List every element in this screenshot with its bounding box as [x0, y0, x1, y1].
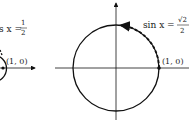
unit-circle-diagrams: s x = 1 2 (1, 0) sin x = √2 2 (1, 0) [0, 0, 189, 120]
right-point-label: (1, 0) [162, 57, 184, 66]
left-equation: s x = [0, 24, 22, 34]
right-equation: sin x = [143, 20, 175, 30]
left-frac-num: 1 [21, 19, 25, 27]
left-unit-circle [0, 50, 35, 82]
left-frac-den: 2 [21, 29, 25, 37]
right-frac-den: 2 [180, 27, 184, 35]
left-point-label: (1, 0) [6, 57, 28, 66]
diagram-canvas: s x = 1 2 (1, 0) sin x = √2 2 (1, 0) [0, 0, 189, 120]
right-frac-num: √2 [178, 16, 187, 24]
